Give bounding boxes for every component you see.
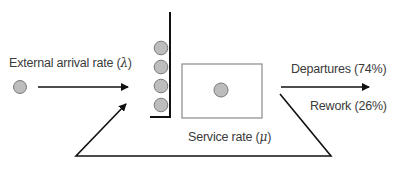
arrival-rate-label: External arrival rate (λ) <box>9 56 132 70</box>
queued-customers <box>154 41 168 112</box>
queued-customer-icon <box>154 41 168 55</box>
queued-customer-icon <box>154 98 168 112</box>
rework-label: Rework (26%) <box>310 99 387 113</box>
queued-customer-icon <box>154 79 168 93</box>
customer-in-service-icon <box>214 83 228 97</box>
arriving-customer-icon <box>14 81 27 94</box>
queued-customer-icon <box>154 60 168 74</box>
queue-diagram <box>0 0 399 170</box>
departures-label: Departures (74%) <box>291 62 386 76</box>
service-rate-label: Service rate (μ) <box>188 130 271 144</box>
